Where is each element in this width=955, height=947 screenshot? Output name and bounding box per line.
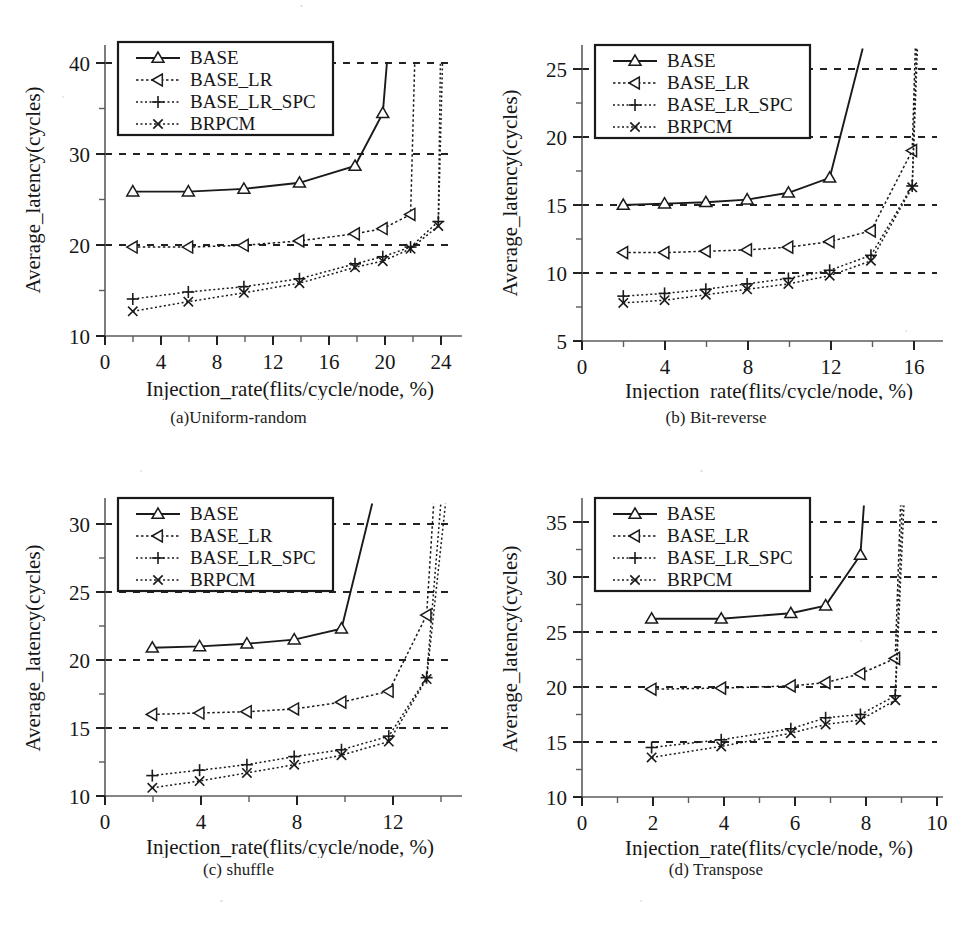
xtick-label: 2 [648,811,659,835]
ytick-label: 30 [69,513,90,537]
scan-artifact [220,900,223,902]
chart-d-legend: BASEBASE_LRBASE_LR_SPCBRPCM [595,498,810,591]
data-point-triangle-left [146,708,156,720]
chart-b-legend: BASEBASE_LRBASE_LR_SPCBRPCM [595,45,810,138]
xtick-label: 4 [719,811,730,835]
xtick-label: 8 [861,811,872,835]
data-point-triangle-left [741,244,751,256]
xtick-label: 4 [196,810,207,834]
xtick-label: 4 [660,355,671,379]
legend-label: BASE [667,50,716,71]
panel-d-plot: 35 30 25 20 15 10 0 2 4 6 8 10 Injection… [477,458,955,858]
xtick-label: 24 [431,350,453,374]
xtick-label: 6 [790,811,801,835]
scan-artifact [905,330,907,332]
data-point-triangle-left [646,683,656,695]
data-point-triangle-left [854,668,864,680]
scan-artifact [640,900,642,902]
legend-label: BASE_LR [667,72,750,93]
ytick-label: 10 [546,262,567,286]
xtick-label: 8 [212,350,223,374]
panel-c-caption: (c) shuffle [0,860,477,880]
data-point-triangle-left [785,680,795,692]
chart-d-xtick-labels: 0 2 4 6 8 10 [577,811,948,835]
data-point-plus [238,281,250,293]
data-point-cross [647,753,656,762]
ytick-label: 25 [546,621,567,645]
data-point-triangle-left [293,235,303,247]
ytick-label: 20 [69,649,90,673]
panel-a-plot: 40 30 20 10 0 4 8 12 16 20 24 Injection_… [0,0,477,400]
ytick-label: 30 [546,566,567,590]
data-point-triangle-left [421,609,431,621]
data-point-triangle-left [405,208,415,220]
data-point-plus [715,734,727,746]
data-point-cross [128,307,137,316]
xtick-label: 10 [927,811,948,835]
data-point-triangle-left [288,703,298,715]
chart-c-svg: 30 25 20 15 10 0 4 8 12 Injection_rate(f… [0,458,477,858]
x-axis-title: Injection_rate(flits/cycle/node, %) [146,835,434,858]
ytick-label: 40 [69,52,90,76]
data-point-plus [617,290,629,302]
panel-a-caption: (a)Uniform-random [0,408,477,428]
scan-artifact [860,640,862,642]
legend-label: BASE_LR [667,525,750,546]
data-point-plus [182,286,194,298]
data-point-plus [146,770,158,782]
scan-artifact [300,5,303,7]
panel-d: 35 30 25 20 15 10 0 2 4 6 8 10 Injection… [477,458,955,947]
ytick-label: 20 [69,234,90,258]
ytick-label: 5 [557,330,568,354]
ytick-label: 15 [546,194,567,218]
x-axis-title: Injection_rate(flits/cycle/node, %) [625,379,913,400]
panel-a: 40 30 20 10 0 4 8 12 16 20 24 Injection_… [0,0,477,458]
xtick-label: 20 [375,350,396,374]
panel-b-plot: 25 20 15 10 5 0 4 8 12 16 Injection_rate… [477,0,955,400]
data-point-plus [194,764,206,776]
chart-c-xtick-labels: 0 4 8 12 [100,810,404,834]
data-point-triangle-left [824,236,834,248]
ytick-label: 10 [546,786,567,810]
data-point-cross [148,783,157,792]
legend-label: BRPCM [667,569,733,590]
data-point-triangle-left [377,223,387,235]
legend-label: BASE_LR_SPC [667,94,793,115]
x-axis-title: Injection_rate(flits/cycle/node, %) [146,377,434,400]
xtick-label: 8 [292,810,303,834]
chart-a-svg: 40 30 20 10 0 4 8 12 16 20 24 Injection_… [0,0,477,400]
chart-d-ytick-labels: 35 30 25 20 15 10 [546,511,567,810]
chart-a-xtick-labels: 0 4 8 12 16 20 24 [100,350,452,374]
chart-b-xtick-labels: 0 4 8 12 16 [577,355,925,379]
data-point-plus [646,742,658,754]
figure-grid: 40 30 20 10 0 4 8 12 16 20 24 Injection_… [0,0,955,947]
data-point-plus [820,712,832,724]
x-axis-title: Injection_rate(flits/cycle/node, %) [625,836,913,858]
panel-b: 25 20 15 10 5 0 4 8 12 16 Injection_rate… [477,0,955,458]
legend-label: BASE_LR_SPC [190,91,316,112]
panel-d-caption: (d) Transpose [477,860,955,880]
chart-d-svg: 35 30 25 20 15 10 0 2 4 6 8 10 Injection… [477,458,955,858]
chart-a-ytick-labels: 40 30 20 10 [69,52,90,349]
panel-c: 30 25 20 15 10 0 4 8 12 Injection_rate(f… [0,458,477,947]
data-point-plus [741,278,753,290]
data-point-triangle-left [127,241,137,253]
data-point-triangle-left [238,239,248,251]
legend-label: BASE_LR [190,69,273,90]
ytick-label: 25 [546,58,567,82]
data-point-triangle-left [906,145,916,157]
data-point-triangle-left [194,707,204,719]
xtick-label: 8 [743,355,754,379]
y-axis-title: Average_latency(cycles) [498,89,522,296]
xtick-label: 12 [383,810,404,834]
chart-b-ytick-labels: 25 20 15 10 5 [546,58,567,354]
data-point-triangle-left [700,245,710,257]
xtick-label: 0 [100,350,111,374]
ytick-label: 35 [546,511,567,535]
ytick-label: 30 [69,143,90,167]
legend-label: BASE [190,47,239,68]
data-point-triangle-left [349,228,359,240]
data-point-triangle-left [383,685,393,697]
scan-artifact [62,96,64,98]
scan-artifact [700,470,703,472]
